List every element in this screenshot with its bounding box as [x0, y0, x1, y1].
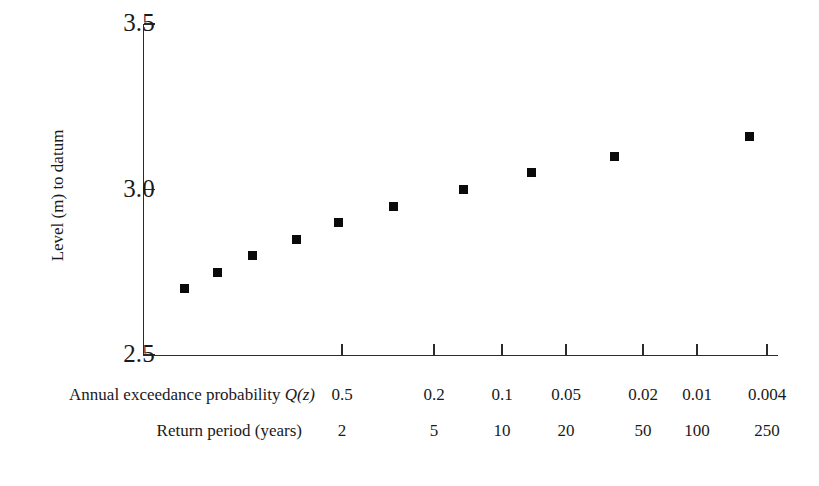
return-period-axis-row: Return period (years) 25102050100250	[0, 419, 819, 445]
return-period-tick-label: 20	[531, 419, 601, 443]
return-period-tick-label: 250	[732, 419, 802, 443]
return-period-tick-label: 10	[467, 419, 537, 443]
data-series-layer	[0, 0, 819, 486]
data-point-marker	[292, 235, 301, 244]
data-point-marker	[459, 185, 468, 194]
data-point-marker	[527, 168, 536, 177]
return-period-axis-title: Return period (years)	[20, 419, 302, 443]
data-point-marker	[180, 284, 189, 293]
probability-tick-label: 0.01	[662, 383, 732, 407]
probability-tick-label: 0.2	[399, 383, 469, 407]
data-point-marker	[213, 268, 222, 277]
data-point-marker	[610, 152, 619, 161]
data-point-marker	[389, 202, 398, 211]
probability-axis-row: Annual exceedance probability Q(z) 0.50.…	[0, 383, 819, 409]
return-period-tick-label: 5	[399, 419, 469, 443]
return-period-tick-label: 100	[662, 419, 732, 443]
data-point-marker	[334, 218, 343, 227]
data-point-marker	[745, 132, 754, 141]
probability-tick-label: 0.5	[307, 383, 377, 407]
return-period-tick-label: 2	[307, 419, 377, 443]
probability-tick-label: 0.1	[467, 383, 537, 407]
probability-tick-label: 0.05	[531, 383, 601, 407]
chart-container: Level (m) to datum 3.53.02.5 Annual exce…	[0, 0, 819, 486]
probability-tick-label: 0.004	[732, 383, 802, 407]
probability-axis-title: Annual exceedance probability Q(z)	[20, 383, 315, 407]
data-point-marker	[248, 251, 257, 260]
probability-axis-title-text: Annual exceedance probability	[69, 385, 285, 404]
